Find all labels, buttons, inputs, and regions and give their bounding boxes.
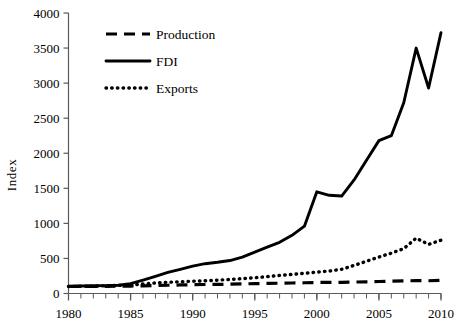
series-line-exports — [69, 238, 442, 286]
x-tick-label: 1990 — [180, 306, 206, 321]
x-axis-major-ticks — [69, 294, 442, 301]
y-axis-ticks — [64, 13, 69, 294]
data-series-group — [69, 33, 442, 287]
y-tick-label: 2500 — [34, 111, 60, 126]
series-line-fdi — [69, 33, 442, 287]
line-chart: 05001000150020002500300035004000 1980198… — [0, 0, 458, 326]
x-tick-label: 1985 — [118, 306, 144, 321]
y-tick-label: 0 — [53, 286, 60, 301]
legend-label-fdi: FDI — [156, 54, 178, 69]
y-tick-label: 500 — [40, 251, 60, 266]
chart-legend: ProductionFDIExports — [106, 27, 215, 96]
x-tick-label: 1980 — [56, 306, 82, 321]
x-tick-label: 2005 — [366, 306, 392, 321]
legend-label-production: Production — [156, 27, 215, 42]
y-tick-label: 3000 — [34, 76, 60, 91]
y-tick-label: 4000 — [34, 6, 60, 21]
x-axis-tick-labels: 1980198519901995200020052010 — [56, 306, 455, 321]
y-axis-tick-labels: 05001000150020002500300035004000 — [34, 6, 60, 302]
x-tick-label: 2010 — [428, 306, 454, 321]
y-axis-title: Index — [4, 159, 19, 192]
legend-label-exports: Exports — [156, 81, 198, 96]
x-tick-label: 2000 — [304, 306, 330, 321]
y-tick-label: 2000 — [34, 146, 60, 161]
y-tick-label: 1500 — [34, 181, 60, 196]
x-tick-label: 1995 — [242, 306, 268, 321]
chart-container: 05001000150020002500300035004000 1980198… — [0, 0, 458, 326]
y-tick-label: 1000 — [34, 216, 60, 231]
y-tick-label: 3500 — [34, 41, 60, 56]
